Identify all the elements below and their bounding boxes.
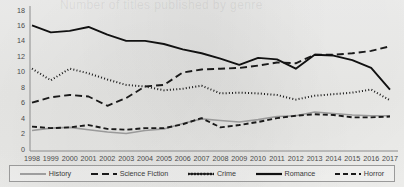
series-line-crime	[32, 69, 390, 101]
x-axis-tick-label: 2014	[325, 154, 341, 163]
legend-label: Crime	[217, 170, 236, 177]
series-line-horror	[32, 114, 390, 129]
x-axis-tick-label: 2003	[118, 154, 134, 163]
chart-figure: Number of titles published by genre 0246…	[0, 0, 404, 187]
x-axis-tick-label: 2006	[175, 154, 191, 163]
x-axis-tick-label: 2002	[99, 154, 115, 163]
legend-label: Horror	[364, 170, 384, 177]
line-chart-plot: 0246810121416181998199920002001200220032…	[0, 0, 404, 187]
x-axis-tick-label: 2001	[81, 154, 97, 163]
legend-swatch-icon	[335, 170, 361, 178]
x-axis-tick-label: 2012	[288, 154, 304, 163]
legend-swatch-icon	[20, 170, 46, 178]
legend-item-science-fiction[interactable]: Science Fiction	[91, 170, 169, 178]
y-axis-tick-label: 10	[17, 67, 25, 76]
y-axis-tick-label: 4	[21, 114, 25, 123]
x-axis-tick-label: 2009	[231, 154, 247, 163]
series-line-romance	[32, 25, 390, 89]
x-axis-tick-label: 2005	[156, 154, 172, 163]
y-axis-tick-label: 2	[21, 129, 25, 138]
x-axis-tick-label: 2004	[137, 154, 153, 163]
legend-swatch-icon	[188, 170, 214, 178]
x-axis-tick-label: 2011	[269, 154, 284, 163]
y-axis-tick-label: 18	[17, 6, 25, 15]
legend-item-crime[interactable]: Crime	[188, 170, 236, 178]
x-axis-tick-label: 2000	[62, 154, 78, 163]
legend-item-horror[interactable]: Horror	[335, 170, 384, 178]
x-axis-tick-label: 2010	[250, 154, 266, 163]
y-axis-tick-label: 14	[17, 36, 25, 45]
y-axis-tick-label: 8	[21, 83, 25, 92]
legend-item-romance[interactable]: Romance	[256, 170, 316, 178]
x-axis-tick-label: 2008	[212, 154, 228, 163]
legend-item-history[interactable]: History	[20, 170, 71, 178]
y-axis-tick-label: 16	[17, 21, 25, 30]
legend-label: Science Fiction	[120, 170, 169, 177]
legend-label: Romance	[285, 170, 316, 177]
x-axis-tick-label: 2017	[382, 154, 398, 163]
chart-legend: HistoryScience FictionCrimeRomanceHorror	[9, 165, 395, 182]
legend-label: History	[49, 170, 71, 177]
legend-swatch-icon	[91, 170, 117, 178]
x-axis-tick-label: 2015	[344, 154, 360, 163]
x-axis-tick-label: 1998	[24, 154, 40, 163]
x-axis-tick-label: 2013	[307, 154, 323, 163]
series-line-history	[32, 112, 390, 134]
x-axis-tick-label: 2007	[194, 154, 210, 163]
x-axis-tick-label: 1999	[43, 154, 59, 163]
y-axis-tick-label: 0	[21, 145, 25, 154]
x-axis-tick-label: 2016	[363, 154, 379, 163]
legend-swatch-icon	[256, 170, 282, 178]
y-axis-tick-label: 6	[21, 98, 25, 107]
y-axis-tick-label: 12	[17, 52, 25, 61]
